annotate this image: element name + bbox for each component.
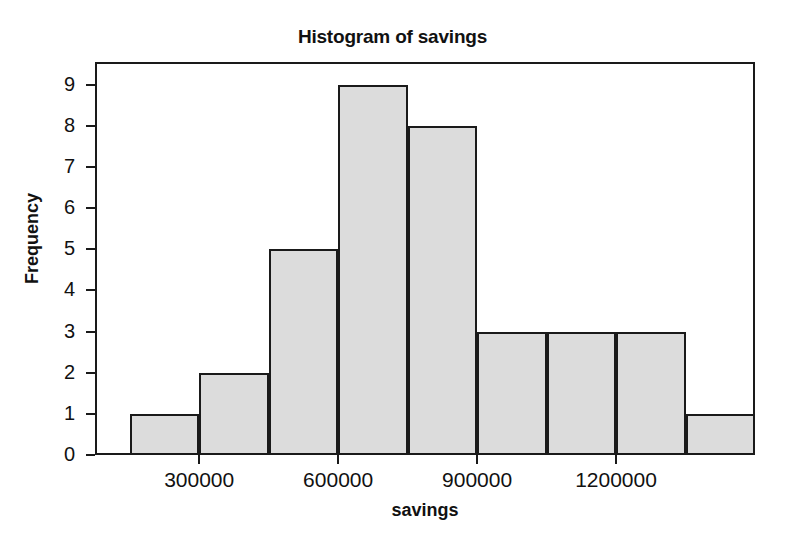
histogram-bar [477,332,546,455]
histogram-bar [408,126,477,455]
y-axis-title: Frequency [22,159,43,319]
y-axis-tick-mark [86,413,95,415]
y-axis-tick-label: 2 [45,362,75,382]
y-axis-tick-label: 3 [45,321,75,341]
x-axis-tick-label: 900000 [407,469,547,491]
x-axis-tick-mark [198,455,200,464]
y-axis-tick-mark [86,166,95,168]
histogram-bar [199,373,268,455]
y-axis-tick-mark [86,372,95,374]
x-axis-title: savings [95,500,755,521]
y-axis-tick-mark [86,289,95,291]
histogram-bar [338,85,407,455]
histogram-bar [269,249,338,455]
y-axis-tick-label: 6 [45,197,75,217]
histogram-bar [616,332,685,455]
y-axis-tick-label: 5 [45,238,75,258]
y-axis-tick-mark [86,331,95,333]
x-axis-tick-label: 300000 [129,469,269,491]
y-axis-tick-mark [86,84,95,86]
histogram-bar [547,332,616,455]
plot-area [95,62,755,455]
y-axis-tick-mark [86,207,95,209]
y-axis-tick-label: 7 [45,156,75,176]
y-axis-tick-mark [86,125,95,127]
x-axis-tick-label: 600000 [268,469,408,491]
x-axis-tick-mark [337,455,339,464]
y-axis-tick-label: 4 [45,279,75,299]
y-axis-tick-label: 8 [45,115,75,135]
x-axis-tick-label: 1200000 [546,469,686,491]
y-axis-tick-label: 9 [45,74,75,94]
histogram-figure: Histogram of savings 0123456789 30000060… [0,0,785,552]
x-axis-tick-mark [476,455,478,464]
histogram-bar [686,414,755,455]
chart-title: Histogram of savings [0,26,785,48]
y-axis-tick-mark [86,454,95,456]
y-axis-tick-label: 1 [45,403,75,423]
y-axis-tick-mark [86,248,95,250]
histogram-bar [130,414,199,455]
y-axis-tick-label: 0 [45,444,75,464]
x-axis-tick-mark [615,455,617,464]
